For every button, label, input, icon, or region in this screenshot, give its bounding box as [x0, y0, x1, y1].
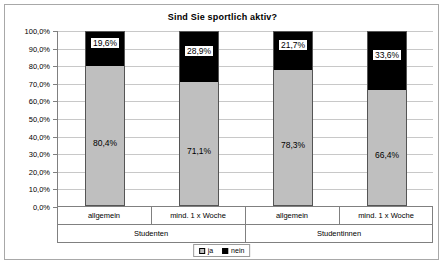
- chart-frame: Sind Sie sportlich aktiv? 100,0%90,0%80,…: [4, 4, 439, 260]
- y-axis-tick-label: 100,0%: [25, 27, 50, 36]
- category-separator: [151, 207, 152, 224]
- bar-value-label: 19,6%: [90, 37, 120, 50]
- bar-segment-nein[interactable]: 21,7%: [274, 32, 312, 70]
- y-axis-tick-label: 80,0%: [29, 62, 50, 71]
- group-label: Studenten: [57, 225, 245, 242]
- legend-entry[interactable]: ja: [199, 247, 213, 254]
- y-axis-tick-label: 60,0%: [29, 97, 50, 106]
- category-label: mind. 1 x Woche: [151, 207, 245, 224]
- y-axis: 100,0%90,0%80,0%70,0%60,0%50,0%40,0%30,0…: [5, 31, 57, 207]
- chart-title: Sind Sie sportlich aktiv?: [5, 12, 440, 22]
- category-axis-tier2: StudentenStudentinnen: [57, 225, 433, 243]
- bar-value-label: 66,4%: [375, 151, 399, 160]
- y-axis-tick-label: 30,0%: [29, 150, 50, 159]
- bar-segment-ja[interactable]: 78,3%: [274, 70, 312, 205]
- category-label: mind. 1 x Woche: [339, 207, 433, 224]
- bar-segment-nein[interactable]: 33,6%: [368, 32, 406, 90]
- bar-value-label: 78,3%: [281, 141, 305, 150]
- category-separator: [245, 207, 246, 224]
- bar-value-label: 71,1%: [187, 147, 211, 156]
- stacked-bar[interactable]: 28,9%71,1%: [179, 31, 219, 206]
- bar-segment-nein[interactable]: 19,6%: [86, 32, 124, 66]
- group-separator: [245, 225, 246, 242]
- bar-value-label: 80,4%: [93, 139, 117, 148]
- bar-slot: 21,7%78,3%: [246, 31, 340, 206]
- legend-label: nein: [231, 247, 244, 254]
- stacked-bar[interactable]: 21,7%78,3%: [273, 31, 313, 206]
- stacked-bar[interactable]: 33,6%66,4%: [367, 31, 407, 206]
- bar-slot: 19,6%80,4%: [58, 31, 152, 206]
- category-label: allgemein: [57, 207, 151, 224]
- chart-legend: janein: [193, 244, 251, 257]
- y-axis-tick-label: 40,0%: [29, 132, 50, 141]
- bar-segment-ja[interactable]: 66,4%: [368, 90, 406, 205]
- legend-label: ja: [208, 247, 213, 254]
- category-label: allgemein: [245, 207, 339, 224]
- legend-swatch-icon: [222, 248, 228, 254]
- bar-value-label: 28,9%: [184, 45, 214, 58]
- bar-value-label: 21,7%: [278, 39, 308, 52]
- legend-entry[interactable]: nein: [222, 247, 244, 254]
- category-separator: [339, 207, 340, 224]
- y-axis-tick-label: 20,0%: [29, 167, 50, 176]
- plot-area: 19,6%80,4%28,9%71,1%21,7%78,3%33,6%66,4%: [57, 31, 433, 207]
- y-axis-tick-label: 50,0%: [29, 115, 50, 124]
- y-axis-tick-label: 0,0%: [33, 203, 50, 212]
- bar-slot: 33,6%66,4%: [340, 31, 434, 206]
- group-label: Studentinnen: [245, 225, 433, 242]
- y-axis-tick-label: 10,0%: [29, 185, 50, 194]
- bar-segment-ja[interactable]: 80,4%: [86, 66, 124, 205]
- y-axis-tick-label: 90,0%: [29, 44, 50, 53]
- y-axis-tick-label: 70,0%: [29, 79, 50, 88]
- bar-segment-ja[interactable]: 71,1%: [180, 82, 218, 205]
- stacked-bar[interactable]: 19,6%80,4%: [85, 31, 125, 206]
- category-axis-tier1: allgemeinmind. 1 x Wocheallgemeinmind. 1…: [57, 207, 433, 225]
- bar-segment-nein[interactable]: 28,9%: [180, 32, 218, 82]
- bar-value-label: 33,6%: [372, 49, 402, 62]
- legend-swatch-icon: [199, 248, 205, 254]
- bar-slot: 28,9%71,1%: [152, 31, 246, 206]
